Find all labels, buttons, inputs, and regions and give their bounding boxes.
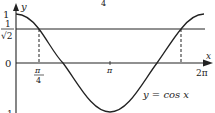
top-fragment-text: 4 [101, 0, 106, 8]
curve-label: y = cos x [142, 89, 189, 100]
x-axis-label: x [206, 51, 211, 61]
x-tick-pi-over-4-den: 4 [36, 76, 41, 85]
x-tick-2pi: 2π [196, 68, 208, 78]
y-axis-label: y [20, 1, 27, 12]
y-tick-0: 0 [5, 58, 11, 69]
y-axis-arrow-icon [13, 3, 19, 11]
x-tick-pi-over-4-num: π [34, 66, 41, 75]
y-tick-inv-sqrt2-num: 1 [5, 19, 11, 29]
x-tick-pi: π [106, 66, 113, 75]
y-tick-neg-1: -1 [4, 109, 13, 113]
y-tick-inv-sqrt2-den: √2 [1, 31, 12, 41]
cosine-graph: 4 y x 1 1 √2 0 -1 π 4 π 2π y = cos x [0, 0, 215, 113]
